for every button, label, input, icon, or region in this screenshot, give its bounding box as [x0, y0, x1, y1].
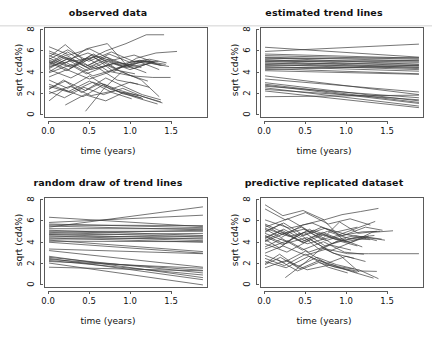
y-tick — [40, 242, 43, 243]
y-tick — [256, 263, 259, 264]
y-axis-label: sqrt (cd4%) — [230, 35, 240, 105]
x-tick-label: 0.0 — [251, 126, 277, 136]
y-tick — [40, 29, 43, 30]
y-tick-label: 8 — [242, 193, 252, 205]
data-series-group — [265, 44, 419, 107]
x-tick — [48, 291, 49, 294]
series-line — [265, 205, 378, 220]
x-tick — [305, 121, 306, 124]
y-tick — [40, 199, 43, 200]
y-tick-label: 8 — [26, 193, 36, 205]
x-axis-label: time (years) — [216, 316, 432, 326]
y-tick — [256, 29, 259, 30]
x-tick-label: 1.5 — [374, 126, 400, 136]
y-tick — [256, 72, 259, 73]
y-tick-label: 2 — [242, 257, 252, 269]
y-tick — [40, 93, 43, 94]
panel-title: estimated trend lines — [216, 7, 432, 18]
x-axis-line — [48, 291, 171, 292]
x-tick-label: 1.0 — [333, 126, 359, 136]
x-tick-label: 0.5 — [76, 126, 102, 136]
x-tick — [305, 291, 306, 294]
plot-area — [44, 27, 208, 118]
x-tick-label: 1.5 — [158, 296, 184, 306]
y-tick-label: 4 — [242, 66, 252, 78]
series-line — [49, 207, 203, 227]
x-tick — [264, 291, 265, 294]
x-tick-label: 0.0 — [251, 296, 277, 306]
y-tick — [256, 93, 259, 94]
series-line — [49, 263, 203, 285]
series-line — [265, 47, 419, 57]
x-tick-label: 0.0 — [35, 296, 61, 306]
y-tick-label: 6 — [242, 44, 252, 56]
panel-random-draw-of-trend-lines: random draw of trend lines 0.00.51.01.5 … — [0, 170, 216, 339]
y-tick-label: 4 — [242, 236, 252, 248]
x-axis-line — [264, 121, 387, 122]
y-tick-label: 0 — [242, 108, 252, 120]
y-tick — [256, 220, 259, 221]
x-tick-label: 1.0 — [333, 296, 359, 306]
y-axis-label: sqrt (cd4%) — [14, 35, 24, 105]
x-tick-label: 0.5 — [292, 126, 318, 136]
data-series-group — [49, 207, 203, 285]
data-series-group — [49, 35, 177, 112]
series-line — [265, 88, 419, 106]
y-tick — [40, 72, 43, 73]
x-tick-label: 0.5 — [76, 296, 102, 306]
plot-svg — [261, 28, 423, 117]
plot-svg — [261, 198, 423, 287]
y-tick-label: 4 — [26, 66, 36, 78]
x-tick-label: 1.0 — [117, 296, 143, 306]
panel-title: observed data — [0, 7, 216, 18]
plot-svg — [45, 198, 207, 287]
x-tick — [387, 291, 388, 294]
y-tick-label: 6 — [26, 214, 36, 226]
y-tick — [40, 114, 43, 115]
y-axis-label: sqrt (cd4%) — [14, 205, 24, 275]
y-tick-label: 8 — [26, 23, 36, 35]
x-axis-line — [264, 291, 387, 292]
x-axis-label: time (years) — [0, 316, 216, 326]
x-tick — [130, 121, 131, 124]
y-tick-label: 0 — [26, 278, 36, 290]
x-axis-label: time (years) — [216, 146, 432, 156]
y-tick-label: 2 — [26, 257, 36, 269]
x-tick — [171, 121, 172, 124]
series-line — [49, 226, 203, 230]
plot-area — [260, 27, 424, 118]
plot-area — [44, 197, 208, 288]
x-tick — [89, 291, 90, 294]
panel-observed-data: observed data 0.00.51.01.5 02468 time (y… — [0, 0, 216, 169]
panel-estimated-trend-lines: estimated trend lines 0.00.51.01.5 02468… — [216, 0, 432, 169]
x-tick-label: 1.5 — [374, 296, 400, 306]
panel-title: random draw of trend lines — [0, 177, 216, 188]
series-line — [265, 44, 419, 51]
y-tick — [40, 263, 43, 264]
y-tick — [256, 242, 259, 243]
x-tick — [130, 291, 131, 294]
x-tick-label: 1.0 — [117, 126, 143, 136]
series-line — [49, 82, 161, 102]
x-tick — [346, 291, 347, 294]
series-line — [86, 72, 160, 112]
x-tick-label: 0.0 — [35, 126, 61, 136]
four-panel-figure: observed data 0.00.51.01.5 02468 time (y… — [0, 0, 432, 339]
y-tick-label: 6 — [26, 44, 36, 56]
y-tick — [40, 284, 43, 285]
panel-predictive-replicated-dataset: predictive replicated dataset 0.00.51.01… — [216, 170, 432, 339]
x-tick — [89, 121, 90, 124]
y-tick-label: 2 — [242, 87, 252, 99]
y-tick-label: 8 — [242, 23, 252, 35]
x-tick-label: 0.5 — [292, 296, 318, 306]
y-tick — [256, 114, 259, 115]
x-tick — [171, 291, 172, 294]
panel-title: predictive replicated dataset — [216, 177, 432, 188]
series-line — [265, 89, 419, 99]
x-axis-label: time (years) — [0, 146, 216, 156]
y-tick-label: 0 — [26, 108, 36, 120]
y-tick-label: 0 — [242, 278, 252, 290]
y-tick — [40, 50, 43, 51]
y-tick — [256, 50, 259, 51]
x-tick — [48, 121, 49, 124]
